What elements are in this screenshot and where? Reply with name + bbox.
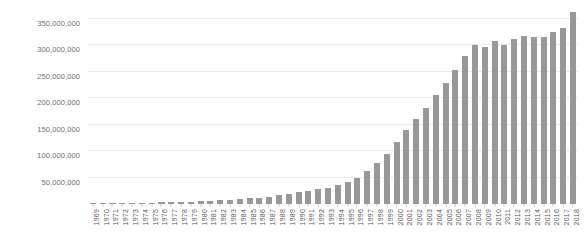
bar (394, 142, 400, 205)
bar-slot (450, 8, 460, 204)
x-axis-tick: 2005 (441, 204, 451, 248)
bar (403, 130, 409, 204)
bar (276, 195, 282, 204)
x-axis-tick-mark (474, 204, 475, 207)
bar (560, 28, 566, 204)
x-axis-tick: 1982 (215, 204, 225, 248)
x-axis-tick: 1974 (137, 204, 147, 248)
bar-slot (411, 8, 421, 204)
x-axis-tick-mark (523, 204, 524, 207)
bar-slot (558, 8, 568, 204)
x-axis-tick: 1975 (147, 204, 157, 248)
bar-slot (323, 8, 333, 204)
x-axis-tick-mark (504, 204, 505, 207)
bar-slot (98, 8, 108, 204)
bar-slot (264, 8, 274, 204)
bar-slot (147, 8, 157, 204)
x-axis-tick-mark (249, 204, 250, 207)
bar-slot (333, 8, 343, 204)
x-axis-tick-mark (171, 204, 172, 207)
bar-slot (88, 8, 98, 204)
x-axis-tick-mark (386, 204, 387, 207)
x-axis-tick-mark (190, 204, 191, 207)
x-axis-tick: 1973 (127, 204, 137, 248)
bar (354, 178, 360, 204)
bar-slot (245, 8, 255, 204)
x-axis-tick-mark (416, 204, 417, 207)
bar (541, 37, 547, 204)
x-axis-tick: 1994 (333, 204, 343, 248)
x-axis-tick: 1990 (294, 204, 304, 248)
bar-slot (108, 8, 118, 204)
bar (462, 56, 468, 204)
bar-slot (313, 8, 323, 204)
x-axis-tick: 1979 (186, 204, 196, 248)
x-axis-tick-mark (318, 204, 319, 207)
x-axis-tick: 1997 (362, 204, 372, 248)
x-axis-tick-mark (563, 204, 564, 207)
x-axis-tick: 1984 (235, 204, 245, 248)
x-axis-tick-mark (122, 204, 123, 207)
x-axis-tick-mark (141, 204, 142, 207)
bar-slot (519, 8, 529, 204)
x-axis-tick: 1998 (372, 204, 382, 248)
x-axis-tick: 1991 (304, 204, 314, 248)
x-axis-tick-mark (543, 204, 544, 207)
x-axis-tick: 1996 (353, 204, 363, 248)
bar-slot (499, 8, 509, 204)
x-axis-tick: 1989 (284, 204, 294, 248)
x-axis-tick: 1971 (108, 204, 118, 248)
bar-slot (206, 8, 216, 204)
bar-slot (166, 8, 176, 204)
bar-slot (362, 8, 372, 204)
x-axis-tick-mark (181, 204, 182, 207)
x-axis-tick-mark (151, 204, 152, 207)
x-axis-tick: 1985 (245, 204, 255, 248)
bar-slot (402, 8, 412, 204)
bar-slot (127, 8, 137, 204)
bar-series (88, 8, 578, 204)
bar-slot (568, 8, 578, 204)
x-axis-tick-mark (200, 204, 201, 207)
bar (423, 108, 429, 204)
x-axis-tick: 2009 (480, 204, 490, 248)
x-axis-tick-mark (367, 204, 368, 207)
x-axis-tick-label: 2018 (573, 209, 580, 225)
bar-slot (460, 8, 470, 204)
x-axis-tick-mark (308, 204, 309, 207)
bar-slot (157, 8, 167, 204)
bar-slot (304, 8, 314, 204)
bar-slot (186, 8, 196, 204)
bar (315, 189, 321, 204)
x-axis-tick-mark (347, 204, 348, 207)
x-axis-tick: 2012 (509, 204, 519, 248)
x-axis-tick: 2018 (568, 204, 578, 248)
bar (286, 194, 292, 204)
x-axis-tick-mark (484, 204, 485, 207)
x-axis-tick-mark (435, 204, 436, 207)
x-axis-tick-mark (425, 204, 426, 207)
bar (374, 163, 380, 204)
bar (511, 39, 517, 204)
x-axis-tick: 2006 (450, 204, 460, 248)
x-axis-tick: 1972 (117, 204, 127, 248)
x-axis-tick-mark (514, 204, 515, 207)
x-axis-tick-mark (455, 204, 456, 207)
x-axis-tick-mark (337, 204, 338, 207)
bar-slot (372, 8, 382, 204)
bar-slot (353, 8, 363, 204)
x-axis-tick-mark (279, 204, 280, 207)
bar (492, 41, 498, 204)
x-axis-tick-mark (445, 204, 446, 207)
x-axis-tick: 2008 (470, 204, 480, 248)
x-axis-tick: 1969 (88, 204, 98, 248)
x-axis-tick-mark (494, 204, 495, 207)
bar (364, 171, 370, 204)
x-axis-tick: 1977 (166, 204, 176, 248)
x-axis-tick: 2014 (529, 204, 539, 248)
x-axis-tick: 2017 (558, 204, 568, 248)
bar-slot (421, 8, 431, 204)
x-axis-tick: 2001 (402, 204, 412, 248)
x-axis-tick: 1999 (382, 204, 392, 248)
x-axis-tick-mark (102, 204, 103, 207)
